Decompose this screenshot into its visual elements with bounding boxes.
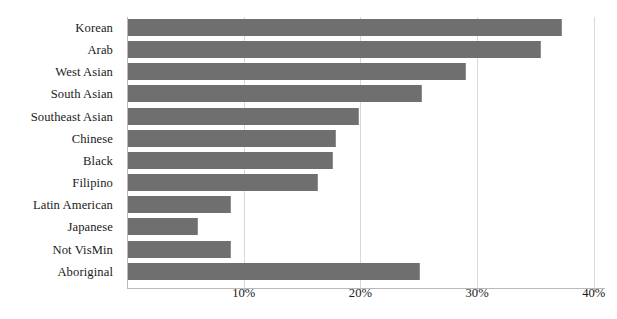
bar-latin-american[interactable]: [128, 196, 231, 213]
bar-chinese[interactable]: [128, 130, 336, 147]
bar-not-vismin[interactable]: [128, 241, 231, 258]
bar-southeast-asian[interactable]: [128, 108, 359, 125]
category-label-chinese: Chinese: [0, 133, 113, 146]
category-label-korean: Korean: [0, 22, 113, 35]
x-tick-label: 40%: [582, 286, 605, 300]
x-tick-label: 20%: [349, 286, 372, 300]
bar-black[interactable]: [128, 152, 333, 169]
category-label-black: Black: [0, 155, 113, 168]
category-label-not-vismin: Not VisMin: [0, 244, 113, 257]
bar-filipino[interactable]: [128, 174, 318, 191]
category-label-latin-american: Latin American: [0, 199, 113, 212]
plot-area: [127, 17, 617, 288]
bar-west-asian[interactable]: [128, 63, 466, 80]
bar-aboriginal[interactable]: [128, 263, 420, 280]
category-label-filipino: Filipino: [0, 177, 113, 190]
x-tick-label: 30%: [466, 286, 489, 300]
category-label-japanese: Japanese: [0, 221, 113, 234]
bar-korean[interactable]: [128, 19, 562, 36]
category-label-aboriginal: Aboriginal: [0, 266, 113, 279]
category-axis-labels: KoreanArabWest AsianSouth AsianSoutheast…: [0, 19, 119, 285]
category-label-arab: Arab: [0, 44, 113, 57]
bar-chart: KoreanArabWest AsianSouth AsianSoutheast…: [0, 0, 617, 319]
category-label-southeast-asian: Southeast Asian: [0, 111, 113, 124]
bar-south-asian[interactable]: [128, 85, 422, 102]
category-label-south-asian: South Asian: [0, 88, 113, 101]
category-label-west-asian: West Asian: [0, 66, 113, 79]
bar-japanese[interactable]: [128, 218, 198, 235]
gridline-40pct: [594, 17, 595, 288]
bar-arab[interactable]: [128, 41, 541, 58]
x-tick-label: 10%: [232, 286, 255, 300]
